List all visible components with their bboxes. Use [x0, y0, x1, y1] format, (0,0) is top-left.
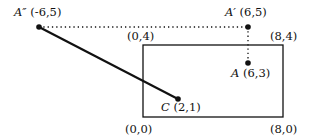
corner-label-8-0: (8,0) — [270, 124, 297, 136]
point-a-double-prime — [36, 24, 42, 30]
point-coord: (6,5) — [240, 5, 267, 19]
point-name: A — [231, 66, 239, 80]
label-a-prime: A′ (6,5) — [225, 7, 267, 19]
corner-label-0-4: (0,4) — [127, 31, 154, 43]
corner-label-0-0: (0,0) — [125, 124, 152, 136]
point-name: A″ — [14, 5, 27, 19]
point-a — [245, 60, 251, 66]
point-a-prime — [245, 24, 251, 30]
label-a: A (6,3) — [231, 68, 270, 80]
point-name: C — [161, 100, 170, 114]
label-c: C (2,1) — [161, 102, 201, 114]
label-a-double-prime: A″ (-6,5) — [14, 7, 61, 19]
corner-label-8-4: (8,4) — [270, 31, 297, 43]
point-coord: (6,3) — [243, 66, 270, 80]
point-coord: (2,1) — [173, 100, 200, 114]
point-name: A′ — [225, 5, 236, 19]
solid-line-a2-to-c — [39, 27, 178, 99]
point-coord: (-6,5) — [30, 5, 61, 19]
